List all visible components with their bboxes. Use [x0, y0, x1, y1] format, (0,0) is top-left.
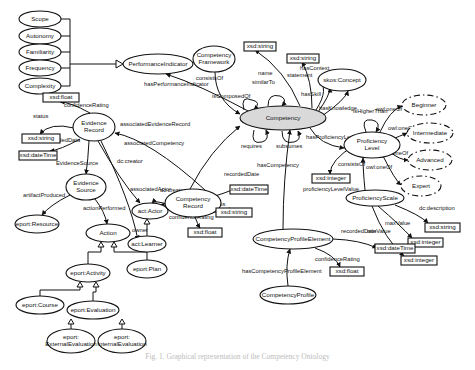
node-xsddt2: xsd:dateTime [230, 185, 268, 194]
node-xsdfloat2: xsd:float [188, 228, 222, 237]
edge-label: maxValue [385, 220, 410, 226]
node-scope: Scope [19, 11, 61, 27]
edge-label: hasPerformanceIndicator [144, 81, 209, 87]
node-xsddt3: xsd:dateTime [375, 244, 415, 253]
node-xsdstr5: xsd:string [425, 223, 460, 232]
node-label: PerformanceIndicator [128, 60, 187, 67]
node-label: xsd:float [335, 267, 358, 274]
node-profscale: ProficiencyScale [346, 190, 404, 206]
edge-label: associatedEvidenceRecord [120, 121, 190, 127]
edge-label: hasSkill [301, 91, 321, 97]
node-eportplan: eport:Plan [127, 260, 167, 278]
nodes-layer: ScopeAutonomyFamiliarityFrequencyComplex… [15, 11, 460, 353]
node-xsdfloat1: xsd:float [43, 93, 79, 102]
node-label: eport: [114, 333, 130, 340]
node-label: xsd:dateTime [231, 185, 268, 192]
edge-label: similarTo [252, 79, 275, 85]
node-action: Action [86, 224, 130, 242]
node-label: CompetencyProfileElement [256, 235, 331, 242]
edge-label: owner [132, 227, 148, 233]
relation-edge [86, 141, 89, 174]
edge-label: hasContext [300, 65, 330, 71]
subclass-arrow-icon [98, 242, 104, 247]
node-label: Evidence [81, 119, 107, 126]
edge-label: EvidenceSource [56, 160, 98, 166]
node-actlearner: act:Learner [128, 236, 166, 252]
node-eportint: eport:InternalEvaluation [97, 329, 147, 353]
node-eportact: eport:Activity [66, 264, 110, 282]
relation-edge [98, 141, 140, 203]
edge-label: proficiencyLevelValue [303, 186, 359, 192]
node-xsdstr2: xsd:string [287, 54, 319, 63]
node-label: Framework [199, 58, 231, 65]
node-xsdstr4: xsd:string [216, 208, 252, 217]
node-label: eport:Resource [16, 220, 59, 227]
node-label: Competency [176, 195, 212, 202]
edge-label: consistsOf [338, 161, 365, 167]
node-xsdint3: xsd:integer [401, 256, 437, 265]
relation-edge [333, 239, 377, 248]
node-label: xsd:string [221, 208, 248, 215]
node-label: Proficiency [357, 137, 388, 144]
node-familiarity: Familiarity [19, 44, 61, 60]
edge-label: owl:oneOf [376, 106, 402, 112]
subclass-arrow-icon [93, 282, 99, 287]
node-label: eport:Evaluation [71, 306, 116, 313]
node-label: Competency [197, 51, 233, 58]
node-compprofile: CompetencyProfile [260, 286, 316, 304]
node-label: Intermediate [413, 129, 448, 136]
node-label: Complexity [25, 82, 57, 89]
node-label: ExternalEvaluation [45, 340, 97, 347]
relation-edge [364, 120, 378, 132]
node-perfind: PerformanceIndicator [123, 54, 193, 74]
subclass-arrow-icon [119, 319, 125, 324]
node-label: xsd:integer [316, 174, 346, 181]
node-label: xsd:integer [404, 256, 434, 263]
edge-label: artifactProduced [23, 192, 65, 198]
node-label: InternalEvaluation [97, 340, 147, 347]
relation-edge [42, 195, 70, 215]
edge-label: name [258, 70, 273, 76]
relation-edge [282, 131, 299, 143]
node-label: xsd:float [193, 228, 216, 235]
relation-edge [322, 91, 348, 116]
node-label: Beginner [412, 101, 437, 108]
node-label: Record [183, 202, 204, 209]
edge-label: confidenceRating [315, 256, 360, 262]
node-frequency: Frequency [19, 60, 61, 76]
subclass-arrow-icon [111, 242, 117, 247]
edge-label: hasCompetencyProfileElement [242, 268, 322, 274]
node-intermediate: Intermediate [407, 123, 453, 143]
relation-edge [268, 95, 285, 106]
node-cpe: CompetencyProfileElement [253, 229, 333, 249]
node-label: skos:Concept [323, 76, 361, 83]
edge-label: statement [287, 72, 313, 78]
node-comprec: CompetencyRecord [165, 189, 221, 217]
node-label: Competency [266, 114, 302, 121]
node-label: Frequency [25, 64, 55, 71]
node-evrec: EvidenceRecord [73, 113, 115, 141]
edge-label: recordedDate [224, 171, 259, 177]
node-label: xsd:dateTime [20, 151, 57, 158]
node-eporteval: eport:Evaluation [67, 301, 119, 319]
node-label: xsd:string [28, 134, 55, 141]
node-xsddt1: xsd:dateTime [19, 151, 57, 160]
node-evsrc: EvidenceSource [66, 174, 106, 200]
node-label: CompetencyProfile [262, 291, 315, 298]
subclass-arrow-icon [116, 60, 123, 68]
relation-edge [383, 156, 401, 185]
relation-edge [40, 126, 74, 134]
node-label: xsd:string [429, 223, 456, 230]
node-eportres: eport:Resource [15, 215, 59, 233]
figure-caption: Fig. 1. Graphical representation of the … [0, 352, 475, 361]
node-advanced: Advanced [408, 150, 452, 170]
node-competency: Competency [240, 106, 326, 130]
node-label: xsd:string [247, 42, 274, 49]
node-actactor: act:Actor [132, 203, 168, 219]
edge-label: dc:description [419, 205, 455, 211]
edge-label: actionPerformed [83, 205, 126, 211]
node-skos: skos:Concept [318, 69, 366, 91]
node-label: Action [99, 229, 117, 236]
node-label: Expert [412, 182, 430, 189]
node-label: xsd:string [290, 54, 317, 61]
